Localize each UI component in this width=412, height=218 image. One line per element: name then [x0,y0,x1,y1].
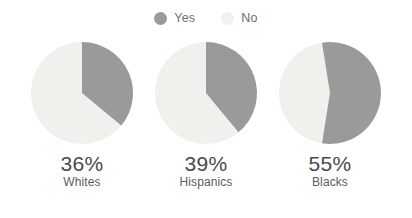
legend-swatch-yes-icon [154,12,167,25]
pie-label-whites: Whites [63,176,100,189]
legend-item-yes: Yes [154,12,195,25]
legend-label-yes: Yes [174,12,195,25]
pie-slice-yes-blacks [322,42,381,144]
pie-value-hispanics: 39% [185,153,228,175]
pie-chart-blacks: 55% Blacks [278,41,382,189]
pie-chart-whites: 36% Whites [30,41,134,189]
pie-label-hispanics: Hispanics [180,176,233,189]
pie-value-blacks: 55% [309,153,352,175]
pie-chart-row: 36% Whites 39% Hispanics 55% Blacks [0,41,412,189]
legend-swatch-no-icon [221,12,234,25]
chart-legend: Yes No [0,12,412,25]
legend-label-no: No [241,12,257,25]
pie-label-blacks: Blacks [312,176,348,189]
pie-graphic-blacks [278,41,382,145]
pie-graphic-whites [30,41,134,145]
pie-value-whites: 36% [61,153,104,175]
pie-chart-hispanics: 39% Hispanics [154,41,258,189]
legend-item-no: No [221,12,257,25]
pie-graphic-hispanics [154,41,258,145]
pie-chart-figure: Yes No 36% Whites 39% Hispanics [0,0,412,218]
